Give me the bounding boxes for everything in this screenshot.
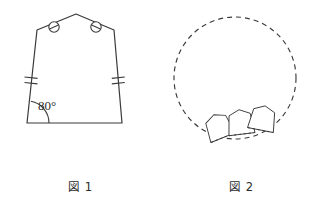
circle-slash-mark-left [49,22,59,32]
figure-sheet: 80° 図 1 図 2 [0,0,322,208]
circle-slash-mark-right [91,22,101,32]
figure2-group [174,17,296,143]
angle-label: 80° [38,98,56,114]
caption-figure-2: 図 2 [161,178,322,194]
tile-3 [248,103,278,132]
caption-figure-1: 図 1 [0,178,161,194]
